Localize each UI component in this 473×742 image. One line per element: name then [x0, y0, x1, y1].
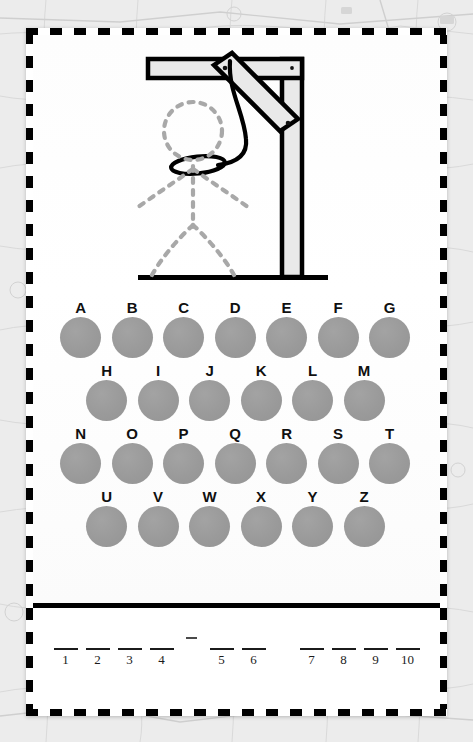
letter-label-f: F: [333, 299, 343, 316]
blank-rule: [242, 648, 266, 650]
letter-row-2: HIJKLM: [55, 362, 418, 421]
letter-disc-u[interactable]: [86, 506, 127, 547]
letter-key-d[interactable]: D: [210, 299, 262, 358]
letter-label-k: K: [256, 362, 267, 379]
answer-blank-3: 3: [116, 648, 144, 668]
letter-label-y: Y: [308, 488, 318, 505]
letter-disc-l[interactable]: [292, 380, 333, 421]
letter-label-n: N: [75, 425, 86, 442]
letter-key-o[interactable]: O: [107, 425, 159, 484]
answer-blank-6: 6: [240, 648, 268, 668]
stick-figure-outline-icon: [138, 102, 248, 275]
letter-disc-q[interactable]: [215, 443, 256, 484]
letter-key-b[interactable]: B: [107, 299, 159, 358]
letter-row-3: NOPQRST: [55, 425, 418, 484]
letter-key-k[interactable]: K: [236, 362, 288, 421]
letter-key-u[interactable]: U: [81, 488, 133, 547]
letter-key-t[interactable]: T: [364, 425, 416, 484]
answer-blanks-strip: 12345678910: [33, 648, 440, 668]
letter-key-l[interactable]: L: [287, 362, 339, 421]
answer-blank-8: 8: [330, 648, 358, 668]
letter-disc-m[interactable]: [344, 380, 385, 421]
letter-key-s[interactable]: S: [313, 425, 365, 484]
letter-disc-i[interactable]: [138, 380, 179, 421]
blank-rule: [118, 648, 142, 650]
letter-key-a[interactable]: A: [55, 299, 107, 358]
blank-rule: [210, 648, 234, 650]
play-panel: ABCDEFGHIJKLMNOPQRSTUVWXYZ: [33, 35, 440, 603]
answer-word-group: 1234: [50, 648, 178, 668]
letter-disc-z[interactable]: [344, 506, 385, 547]
letter-label-z: Z: [359, 488, 369, 505]
answer-panel: 12345678910: [33, 608, 440, 709]
letter-disc-c[interactable]: [163, 317, 204, 358]
answer-word-group: 78910: [296, 648, 424, 668]
letter-label-r: R: [281, 425, 292, 442]
letter-key-z[interactable]: Z: [339, 488, 391, 547]
letter-label-v: V: [153, 488, 163, 505]
letter-key-e[interactable]: E: [261, 299, 313, 358]
letter-key-x[interactable]: X: [236, 488, 288, 547]
letter-key-f[interactable]: F: [313, 299, 365, 358]
letter-label-a: A: [75, 299, 86, 316]
letter-key-r[interactable]: R: [261, 425, 313, 484]
letter-key-y[interactable]: Y: [287, 488, 339, 547]
hyphen-mark-icon: [186, 637, 197, 639]
letter-disc-f[interactable]: [318, 317, 359, 358]
letter-disc-k[interactable]: [241, 380, 282, 421]
letter-key-i[interactable]: I: [133, 362, 185, 421]
letter-label-i: I: [156, 362, 161, 379]
letter-label-s: S: [333, 425, 343, 442]
letter-key-n[interactable]: N: [55, 425, 107, 484]
letter-disc-w[interactable]: [189, 506, 230, 547]
alphabet-keypad: ABCDEFGHIJKLMNOPQRSTUVWXYZ: [33, 299, 440, 551]
answer-word-group: 56: [206, 648, 270, 668]
letter-key-p[interactable]: P: [158, 425, 210, 484]
answer-blank-10: 10: [394, 648, 422, 668]
letter-disc-v[interactable]: [138, 506, 179, 547]
letter-label-t: T: [385, 425, 395, 442]
letter-label-c: C: [178, 299, 189, 316]
figure-right-leg-icon: [193, 225, 234, 275]
letter-disc-a[interactable]: [60, 317, 101, 358]
letter-disc-o[interactable]: [112, 443, 153, 484]
blank-number: 7: [308, 652, 315, 668]
letter-key-q[interactable]: Q: [210, 425, 262, 484]
letter-key-g[interactable]: G: [364, 299, 416, 358]
letter-label-p: P: [179, 425, 189, 442]
answer-blank-9: 9: [362, 648, 390, 668]
card-inner: ABCDEFGHIJKLMNOPQRSTUVWXYZ 12345678910: [33, 35, 440, 709]
letter-key-v[interactable]: V: [133, 488, 185, 547]
letter-disc-t[interactable]: [369, 443, 410, 484]
figure-left-arm-icon: [138, 169, 193, 207]
letter-disc-e[interactable]: [266, 317, 307, 358]
letter-key-h[interactable]: H: [81, 362, 133, 421]
letter-disc-d[interactable]: [215, 317, 256, 358]
blank-rule: [396, 648, 420, 650]
letter-disc-r[interactable]: [266, 443, 307, 484]
letter-disc-j[interactable]: [189, 380, 230, 421]
letter-disc-n[interactable]: [60, 443, 101, 484]
letter-key-c[interactable]: C: [158, 299, 210, 358]
letter-key-w[interactable]: W: [184, 488, 236, 547]
letter-key-j[interactable]: J: [184, 362, 236, 421]
answer-blank-1: 1: [52, 648, 80, 668]
blank-number: 6: [250, 652, 257, 668]
vertical-post-icon: [282, 59, 302, 277]
letter-label-e: E: [282, 299, 292, 316]
letter-key-m[interactable]: M: [339, 362, 391, 421]
blank-rule: [364, 648, 388, 650]
letter-label-b: B: [127, 299, 138, 316]
letter-label-u: U: [101, 488, 112, 505]
letter-disc-s[interactable]: [318, 443, 359, 484]
letter-disc-y[interactable]: [292, 506, 333, 547]
gallows-illustration: [122, 35, 352, 297]
letter-disc-b[interactable]: [112, 317, 153, 358]
letter-disc-g[interactable]: [369, 317, 410, 358]
blank-number: 2: [94, 652, 101, 668]
letter-disc-x[interactable]: [241, 506, 282, 547]
blank-number: 10: [401, 652, 414, 668]
answer-blank-5: 5: [208, 648, 236, 668]
letter-disc-h[interactable]: [86, 380, 127, 421]
letter-disc-p[interactable]: [163, 443, 204, 484]
